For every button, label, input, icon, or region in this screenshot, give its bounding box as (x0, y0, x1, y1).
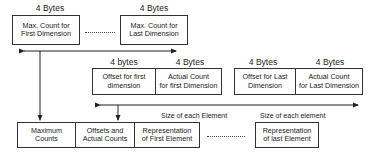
box-text: for Last Dimension (299, 82, 359, 91)
ellipsis-dots (85, 32, 115, 33)
byte-size-label: 4 bytes (104, 57, 144, 67)
offset-first-dimension-box: Offset for firstdimension (92, 68, 156, 95)
actual-count-last-dimension-box: Actual Countfor Last Dimension (295, 68, 363, 95)
first-element-representation-box: Representationof First Element (134, 122, 200, 148)
element-size-label: Size of each element (260, 112, 325, 119)
max-count-first-dimension-box: Max. Count forFirst Dimension (12, 15, 80, 45)
offset-last-dimension-box: Offset for LastDimension (234, 68, 296, 95)
byte-size-label: 4 Bytes (134, 3, 174, 13)
maximum-counts-box: MaximumCounts (17, 122, 76, 148)
byte-size-label: 4 Bytes (30, 3, 70, 13)
box-text: Actual Counts (83, 135, 128, 144)
box-text: of last Element (263, 135, 312, 144)
box-text: for first Dimension (160, 82, 218, 91)
byte-size-label: 4 Bytes (243, 57, 283, 67)
actual-count-first-dimension-box: Actual Countfor first Dimension (155, 68, 222, 95)
box-text: Last Dimension (129, 30, 179, 39)
box-text: First Dimension (21, 30, 71, 39)
box-text: of First Element (142, 135, 192, 144)
offsets-and-actual-counts-box: Offsets andActual Counts (75, 122, 135, 148)
max-count-last-dimension-box: Max. Count forLast Dimension (120, 15, 188, 45)
box-text: dimension (102, 82, 145, 91)
last-element-representation-box: Representationof last Element (255, 122, 319, 148)
byte-size-label: 4 Bytes (310, 57, 350, 67)
byte-size-label: 4 Bytes (170, 57, 210, 67)
box-text: Dimension (242, 82, 287, 91)
ellipsis-dots (207, 136, 245, 137)
element-size-label: Size of each Element (161, 112, 227, 119)
box-text: Counts (31, 135, 62, 144)
